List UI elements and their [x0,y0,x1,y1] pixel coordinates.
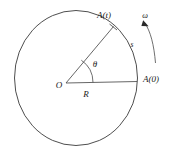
label-arc-length-s: s [131,40,134,49]
rotation-arrowhead-icon [141,20,148,26]
label-point-at-time-zero: A(0) [142,74,159,84]
circular-motion-diagram: A(t) ω s θ O R A(0) [0,0,169,151]
theta-angle-arc [81,60,93,82]
label-point-at-time-t: A(t) [96,10,111,20]
label-center-O: O [56,80,63,90]
radius-line-R [66,82,137,84]
radius-line-At [66,27,114,84]
figure-container: A(t) ω s θ O R A(0) [0,0,169,151]
label-angular-velocity: ω [142,11,148,20]
label-radius-R: R [82,89,89,99]
circle-path [15,11,138,146]
rotation-direction-arc [145,23,156,64]
label-angle-theta: θ [93,59,98,69]
